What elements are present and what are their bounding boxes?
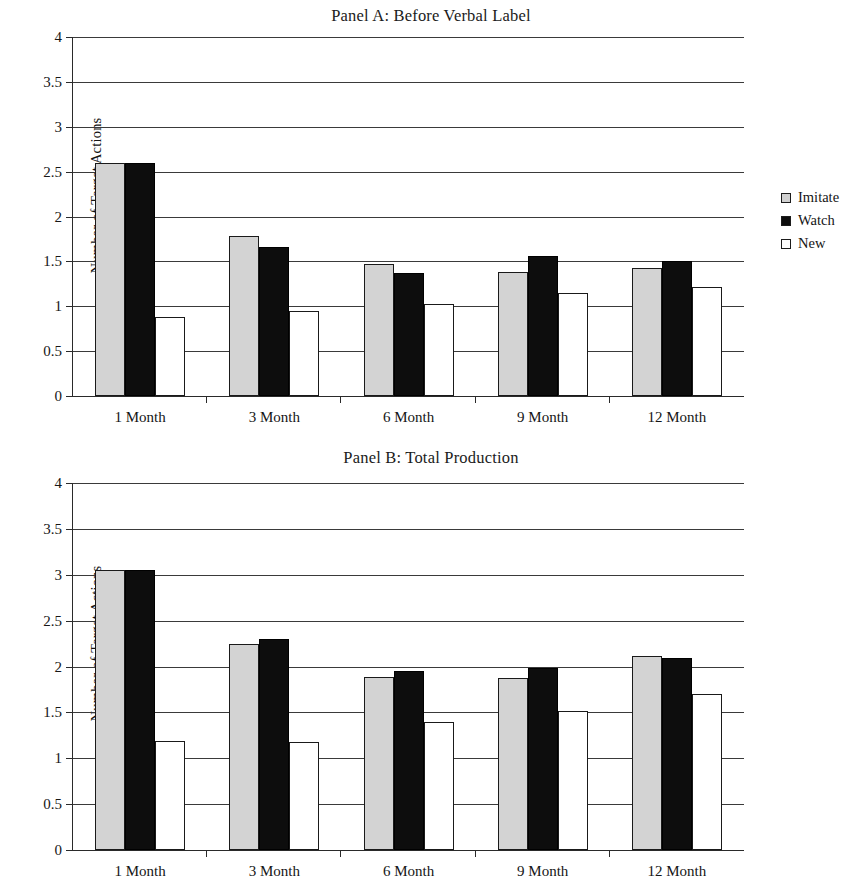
y-axis-tick bbox=[66, 127, 73, 128]
panel-a-plot-area: 00.511.522.533.54 1 Month3 Month6 Month9… bbox=[72, 37, 744, 397]
y-axis-tick bbox=[66, 575, 73, 576]
panel-a-plot: Number of Target Actions 00.511.522.533.… bbox=[72, 37, 744, 397]
bar-new bbox=[289, 742, 319, 850]
bar-new bbox=[155, 317, 185, 396]
legend-label: Watch bbox=[798, 212, 835, 229]
y-axis-tick-label: 0.5 bbox=[43, 796, 62, 813]
bar-watch bbox=[259, 247, 289, 396]
bar-new bbox=[692, 287, 722, 396]
y-axis-tick-label: 4 bbox=[55, 29, 63, 46]
legend-label: New bbox=[798, 235, 825, 252]
panel-b-x-labels: 1 Month3 Month6 Month9 Month12 Month bbox=[73, 863, 744, 880]
x-axis-tick-label: 9 Month bbox=[476, 409, 610, 426]
x-axis-tick-label: 3 Month bbox=[207, 409, 341, 426]
y-axis-tick-label: 2 bbox=[55, 658, 63, 675]
x-axis-tick-label: 12 Month bbox=[610, 863, 744, 880]
y-axis-tick-label: 3 bbox=[55, 118, 63, 135]
x-axis-tick bbox=[610, 850, 744, 858]
bar-group bbox=[207, 483, 341, 850]
bar-new bbox=[558, 293, 588, 396]
y-axis-tick bbox=[66, 712, 73, 713]
y-axis-tick bbox=[66, 804, 73, 805]
y-axis-tick-label: 1 bbox=[55, 750, 63, 767]
y-axis-tick-label: 3.5 bbox=[43, 73, 62, 90]
panel-b-title: Panel B: Total Production bbox=[0, 448, 862, 468]
y-axis-tick bbox=[66, 37, 73, 38]
bar-new bbox=[424, 722, 454, 850]
y-axis-tick-label: 0 bbox=[55, 388, 63, 405]
bar-watch bbox=[528, 256, 558, 396]
bar-imitate bbox=[364, 677, 394, 850]
bar-imitate bbox=[229, 644, 259, 850]
bar-imitate bbox=[95, 163, 125, 396]
panel-a-x-ticks bbox=[73, 396, 744, 404]
legend-item-imitate: Imitate bbox=[781, 186, 839, 209]
figure-page: Panel A: Before Verbal Label Number of T… bbox=[0, 0, 862, 895]
y-axis-tick bbox=[66, 306, 73, 307]
bar-watch bbox=[662, 658, 692, 850]
y-axis-tick-label: 0 bbox=[55, 842, 63, 859]
y-axis-tick-label: 1.5 bbox=[43, 253, 62, 270]
y-axis-tick-label: 0.5 bbox=[43, 343, 62, 360]
bar-new bbox=[424, 304, 454, 396]
bar-new bbox=[692, 694, 722, 850]
x-axis-tick bbox=[73, 850, 207, 858]
y-axis-tick-label: 1.5 bbox=[43, 704, 62, 721]
bar-new bbox=[558, 711, 588, 850]
bar-imitate bbox=[632, 268, 662, 396]
bar-watch bbox=[125, 570, 155, 850]
bar-group bbox=[73, 483, 207, 850]
y-axis-tick bbox=[66, 351, 73, 352]
panel-a-x-labels: 1 Month3 Month6 Month9 Month12 Month bbox=[73, 409, 744, 426]
x-axis-tick bbox=[476, 396, 610, 404]
panel-b-plot-area: 00.511.522.533.54 1 Month3 Month6 Month9… bbox=[72, 483, 744, 851]
bar-group bbox=[207, 37, 341, 396]
legend-label: Imitate bbox=[798, 189, 839, 206]
bar-imitate bbox=[498, 678, 528, 850]
bar-watch bbox=[662, 261, 692, 396]
x-axis-tick-label: 3 Month bbox=[207, 863, 341, 880]
bar-imitate bbox=[95, 570, 125, 850]
panel-a-bar-groups bbox=[73, 37, 744, 396]
bar-imitate bbox=[632, 656, 662, 851]
x-axis-tick bbox=[73, 396, 207, 404]
y-axis-tick-label: 4 bbox=[55, 475, 63, 492]
panel-a: Panel A: Before Verbal Label Number of T… bbox=[0, 0, 862, 440]
bar-group bbox=[476, 483, 610, 850]
panel-b: Panel B: Total Production Number of Targ… bbox=[0, 440, 862, 895]
y-axis-tick bbox=[66, 529, 73, 530]
x-axis-tick bbox=[207, 396, 341, 404]
y-axis-tick-label: 3 bbox=[55, 566, 63, 583]
panel-b-plot: Number of Target Actions 00.511.522.533.… bbox=[72, 483, 744, 851]
bar-imitate bbox=[229, 236, 259, 396]
bar-watch bbox=[394, 273, 424, 396]
bar-group bbox=[73, 37, 207, 396]
bar-new bbox=[289, 311, 319, 396]
panel-b-x-ticks bbox=[73, 850, 744, 858]
bar-group bbox=[476, 37, 610, 396]
legend-swatch-imitate-icon bbox=[781, 193, 791, 203]
legend-item-watch: Watch bbox=[781, 209, 839, 232]
y-axis-tick-label: 2.5 bbox=[43, 612, 62, 629]
y-axis-tick-label: 2.5 bbox=[43, 163, 62, 180]
y-axis-tick-label: 1 bbox=[55, 298, 63, 315]
x-axis-tick bbox=[341, 850, 475, 858]
legend-swatch-new-icon bbox=[781, 239, 791, 249]
bar-group bbox=[610, 37, 744, 396]
y-axis-tick bbox=[66, 217, 73, 218]
x-axis-tick-label: 12 Month bbox=[610, 409, 744, 426]
bar-group bbox=[610, 483, 744, 850]
y-axis-tick-label: 2 bbox=[55, 208, 63, 225]
x-axis-tick bbox=[341, 396, 475, 404]
x-axis-tick-label: 6 Month bbox=[341, 863, 475, 880]
bar-group bbox=[341, 37, 475, 396]
legend-item-new: New bbox=[781, 232, 839, 255]
bar-watch bbox=[259, 639, 289, 850]
x-axis-tick-label: 1 Month bbox=[73, 409, 207, 426]
y-axis-tick bbox=[66, 850, 73, 851]
y-axis-tick bbox=[66, 172, 73, 173]
x-axis-tick-label: 9 Month bbox=[476, 863, 610, 880]
x-axis-tick bbox=[476, 850, 610, 858]
x-axis-tick bbox=[610, 396, 744, 404]
panel-a-title: Panel A: Before Verbal Label bbox=[0, 6, 862, 26]
